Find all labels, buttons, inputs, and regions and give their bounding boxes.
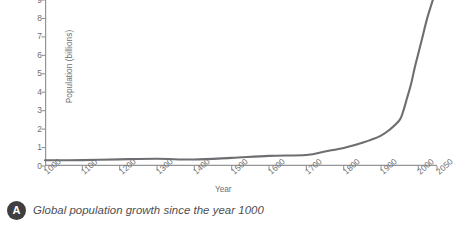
y-tick-label: 8: [30, 14, 42, 22]
y-tick-label: 3: [30, 106, 42, 114]
y-tick-label: 6: [30, 51, 42, 59]
chart-svg: [45, 0, 437, 166]
x-tick-label: 2050: [434, 156, 455, 176]
y-tick-label: 4: [30, 88, 42, 96]
y-tick-label: 7: [30, 32, 42, 40]
caption-text: Global population growth since the year …: [33, 204, 264, 216]
population-curve: [45, 0, 437, 160]
y-axis-tick-labels: 0123456789: [26, 0, 42, 166]
y-tick-label: 9: [30, 0, 42, 4]
y-tick-label: 5: [30, 69, 42, 77]
plot-area: Population (billions): [45, 0, 437, 166]
x-axis-title: Year: [215, 185, 232, 194]
y-tick-label: 2: [30, 125, 42, 133]
y-tick-label: 1: [30, 143, 42, 151]
caption-badge: A: [7, 201, 26, 220]
y-axis-title: Population (billions): [65, 0, 74, 137]
figure-caption: A Global population growth since the yea…: [7, 198, 264, 222]
y-tick-marks: [42, 0, 46, 166]
y-tick-label: 0: [30, 162, 42, 170]
x-axis-tick-labels: 1000110012001300140015001600170018001900…: [45, 166, 437, 196]
